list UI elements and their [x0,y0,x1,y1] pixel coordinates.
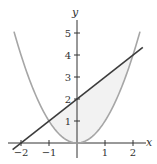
y-tick-label: 2 [65,94,71,105]
y-tick-label: 4 [65,50,71,61]
x-tick-label: 2 [130,147,136,158]
y-axis-label: y [71,6,79,19]
x-tick-label: −1 [42,147,57,158]
x-tick-label: −2 [14,147,29,158]
x-tick-label: 1 [102,147,108,158]
shaded-region [49,55,133,143]
y-tick-label: 3 [65,72,71,83]
x-axis-label: x [146,136,153,149]
chart-svg: −2−11212345 x y [0,0,157,164]
chart: −2−11212345 x y [0,0,157,164]
y-tick-label: 1 [65,116,71,127]
y-tick-label: 5 [65,28,71,39]
